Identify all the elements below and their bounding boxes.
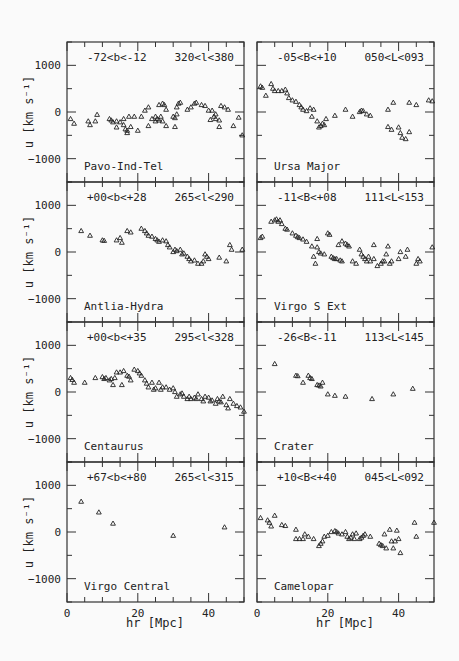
data-point-triangle: [396, 256, 401, 260]
b-range-label: +10<B<+40: [277, 471, 337, 484]
data-point-triangle: [160, 119, 165, 123]
data-point-triangle: [400, 135, 405, 139]
panel-virgo-s-ext: -11<B<+08111<L<153Virgo S Ext: [257, 182, 435, 322]
data-point-triangle: [210, 108, 215, 112]
data-point-triangle: [272, 361, 277, 365]
b-range-label: +67<b<+80: [87, 471, 147, 484]
b-range-label: -05<B<+10: [277, 51, 337, 64]
data-point-triangle: [88, 233, 93, 237]
data-point-triangle: [231, 401, 236, 405]
l-range-label: 265<l<315: [174, 471, 234, 484]
y-axis-label: u [km s⁻¹]: [22, 216, 36, 288]
data-point-triangle: [111, 382, 116, 386]
figure: 10000−1000-72<b<-12320<l<380Pavo-Ind-Tel…: [0, 0, 459, 661]
data-point-triangle: [222, 525, 227, 529]
y-axis-label: u [km s⁻¹]: [22, 76, 36, 148]
data-point-triangle: [371, 256, 376, 260]
b-range-label: -11<B<+08: [277, 191, 337, 204]
data-point-triangle: [301, 380, 306, 384]
data-point-triangle: [332, 393, 337, 397]
data-point-triangle: [236, 115, 241, 119]
data-point-triangle: [269, 81, 274, 85]
region-name: Virgo Central: [84, 580, 170, 593]
data-point-triangle: [398, 550, 403, 554]
data-point-triangle: [322, 252, 327, 256]
data-point-triangle: [396, 125, 401, 129]
data-point-triangle: [153, 386, 158, 390]
data-point-triangle: [309, 244, 314, 248]
data-point-triangle: [272, 513, 277, 517]
data-point-triangle: [231, 123, 236, 127]
data-point-triangle: [128, 124, 133, 128]
data-point-triangle: [343, 529, 348, 533]
data-point-triangle: [396, 536, 401, 540]
data-point-triangle: [119, 382, 124, 386]
data-point-triangle: [146, 105, 151, 109]
panel-crater: -26<B<-11113<L<145Crater: [257, 322, 434, 462]
data-point-triangle: [410, 386, 415, 390]
data-point-triangle: [407, 100, 412, 104]
data-point-triangle: [139, 226, 144, 230]
y-tick-label: 1000: [35, 339, 62, 352]
data-point-triangle: [301, 536, 306, 540]
data-point-triangle: [302, 532, 307, 536]
data-point-triangle: [150, 234, 155, 238]
data-point-triangle: [412, 520, 417, 524]
l-range-label: 045<L<092: [364, 471, 424, 484]
data-point-triangle: [150, 380, 155, 384]
data-point-triangle: [352, 536, 357, 540]
data-point-triangle: [398, 249, 403, 253]
data-point-triangle: [164, 123, 169, 127]
data-point-triangle: [201, 259, 206, 263]
data-point-triangle: [112, 375, 117, 379]
data-point-triangle: [111, 521, 116, 525]
data-point-triangle: [263, 93, 268, 97]
data-point-triangle: [371, 242, 376, 246]
l-range-label: 050<L<093: [364, 51, 424, 64]
data-point-triangle: [217, 118, 222, 122]
x-tick-label: 0: [64, 607, 71, 620]
data-point-triangle: [332, 113, 337, 117]
data-point-triangle: [283, 523, 288, 527]
region-name: Camelopar: [274, 580, 334, 593]
x-axis-label-right: hr [Mpc]: [316, 616, 374, 630]
data-point-triangle: [203, 103, 208, 107]
data-point-triangle: [224, 259, 229, 263]
data-point-triangle: [95, 112, 100, 116]
data-point-triangle: [82, 380, 87, 384]
data-point-triangle: [79, 228, 84, 232]
data-point-triangle: [229, 247, 234, 251]
region-name: Centaurus: [84, 440, 144, 453]
data-point-triangle: [219, 103, 224, 107]
data-point-triangle: [164, 385, 169, 389]
panel-camelopar: 02040+10<B<+40045<L<092Camelopar: [254, 462, 437, 620]
data-point-triangle: [315, 236, 320, 240]
data-point-triangle: [135, 128, 140, 132]
data-point-triangle: [139, 114, 144, 118]
data-point-triangle: [386, 124, 391, 128]
x-tick-label: 0: [254, 607, 261, 620]
data-point-triangle: [309, 114, 314, 118]
data-point-triangle: [391, 546, 396, 550]
y-tick-label: −1000: [28, 573, 61, 586]
data-point-triangle: [340, 239, 345, 243]
data-point-triangle: [146, 123, 151, 127]
data-point-triangle: [192, 258, 197, 262]
data-point-triangle: [320, 380, 325, 384]
data-point-triangle: [227, 242, 232, 246]
y-axis-label: u [km s⁻¹]: [22, 356, 36, 428]
data-point-triangle: [391, 100, 396, 104]
region-name: Crater: [274, 440, 314, 453]
y-tick-label: 1000: [35, 479, 62, 492]
region-name: Ursa Major: [274, 160, 341, 173]
data-point-triangle: [311, 254, 316, 258]
data-point-triangle: [125, 228, 130, 232]
data-point-triangle: [220, 394, 225, 398]
data-point-triangle: [308, 106, 313, 110]
data-point-triangle: [96, 510, 101, 514]
data-point-triangle: [79, 499, 84, 503]
data-point-triangle: [354, 531, 359, 535]
data-point-triangle: [389, 259, 394, 263]
data-point-triangle: [398, 130, 403, 134]
data-point-triangle: [394, 528, 399, 532]
